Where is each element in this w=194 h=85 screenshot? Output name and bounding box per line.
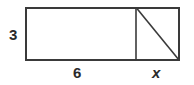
outer-rectangle (26, 8, 179, 60)
geometry-figure-canvas: 3 6 x (0, 0, 194, 85)
height-label: 3 (9, 27, 17, 42)
right-width-label: x (152, 65, 160, 80)
left-width-label: 6 (73, 65, 81, 80)
geometry-figure-svg (0, 0, 194, 85)
